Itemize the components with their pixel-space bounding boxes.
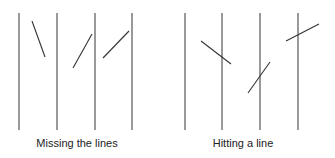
caption-hitting-line: Hitting a line bbox=[213, 137, 274, 149]
needle bbox=[248, 62, 270, 93]
panel-missing-lines bbox=[19, 13, 132, 130]
panel-hitting-line bbox=[185, 13, 319, 130]
caption-missing-lines: Missing the lines bbox=[36, 137, 117, 149]
needle bbox=[103, 31, 129, 58]
needle bbox=[286, 24, 319, 41]
needle bbox=[201, 41, 231, 64]
needle bbox=[73, 34, 92, 68]
buffon-needle-diagram bbox=[0, 0, 335, 158]
needle bbox=[32, 21, 45, 57]
